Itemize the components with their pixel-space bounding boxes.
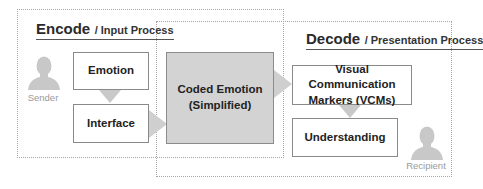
decode-title: Decode / Presentation Process xyxy=(306,31,483,50)
arrow-down-icon xyxy=(99,90,121,103)
arrow-right-icon xyxy=(149,110,167,138)
coded-emotion-line2: (Simplified) xyxy=(189,98,252,114)
sender-label: Sender xyxy=(13,92,73,103)
interface-label: Interface xyxy=(87,116,135,132)
emotion-box: Emotion xyxy=(73,52,149,90)
understanding-label: Understanding xyxy=(304,130,385,146)
understanding-box: Understanding xyxy=(292,118,398,157)
encode-title: Encode / Input Process xyxy=(36,21,174,40)
encode-title-main: Encode xyxy=(36,20,90,37)
decode-title-sub: / Presentation Process xyxy=(365,34,483,46)
decode-title-main: Decode xyxy=(306,30,360,47)
arrow-right-icon xyxy=(274,70,292,98)
interface-box: Interface xyxy=(73,104,149,143)
emotion-label: Emotion xyxy=(88,63,134,79)
vcm-line1: Visual Communication xyxy=(293,62,411,93)
coded-emotion-line1: Coded Emotion xyxy=(178,82,263,98)
vcm-box: Visual Communication Markers (VCMs) xyxy=(292,65,412,105)
recipient-person-icon xyxy=(410,125,444,160)
recipient-label: Recipient xyxy=(396,160,456,171)
coded-emotion-box: Coded Emotion (Simplified) xyxy=(166,52,274,144)
sender-person-icon xyxy=(27,55,61,90)
encode-title-sub: / Input Process xyxy=(95,24,174,36)
arrow-down-icon xyxy=(339,105,361,118)
